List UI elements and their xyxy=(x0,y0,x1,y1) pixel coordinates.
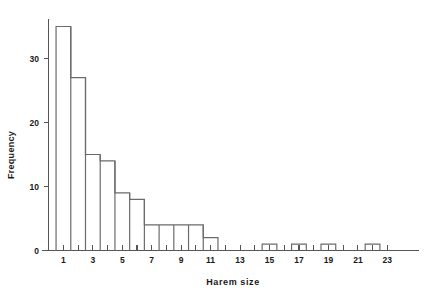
y-tick-label-30: 30 xyxy=(30,54,40,64)
y-tick-label-20: 20 xyxy=(30,118,40,128)
histogram-chart: 0 10 20 30 xyxy=(0,0,429,295)
x-tick-label-19: 19 xyxy=(324,255,334,265)
x-tick-label-21: 21 xyxy=(353,255,363,265)
x-tick-label-15: 15 xyxy=(265,255,275,265)
x-axis-title: Harem size xyxy=(206,277,260,287)
y-tick-label-10: 10 xyxy=(30,182,40,192)
x-tick-label-9: 9 xyxy=(179,255,184,265)
x-tick-label-5: 5 xyxy=(120,255,125,265)
y-tick-label-0: 0 xyxy=(34,246,39,256)
x-tick-label-7: 7 xyxy=(149,255,154,265)
x-tick-label-13: 13 xyxy=(235,255,245,265)
x-tick-label-23: 23 xyxy=(383,255,393,265)
x-tick-label-17: 17 xyxy=(294,255,304,265)
histogram-svg: 0 10 20 30 xyxy=(0,0,429,295)
x-tick-label-1: 1 xyxy=(61,255,66,265)
x-tick-label-11: 11 xyxy=(206,255,215,265)
y-axis-title: Frequency xyxy=(6,131,16,179)
x-tick-label-3: 3 xyxy=(91,255,96,265)
